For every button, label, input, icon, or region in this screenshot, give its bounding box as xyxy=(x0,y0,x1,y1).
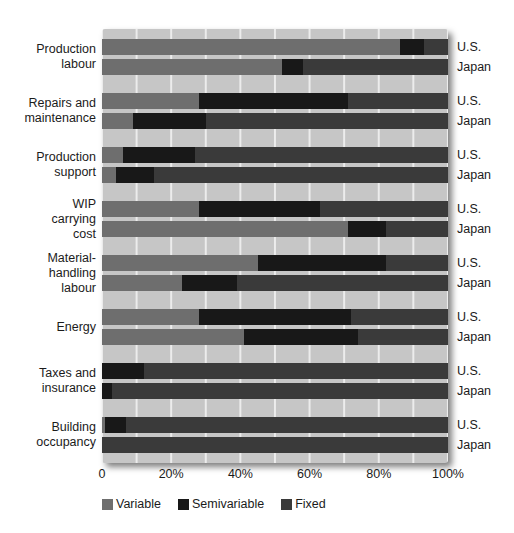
country-label: Japan xyxy=(457,330,491,344)
category-label-line: carrying xyxy=(52,212,96,227)
bar-segment-variable xyxy=(102,59,282,75)
legend-item: Semivariable xyxy=(178,497,264,511)
bar-segment-variable xyxy=(102,201,199,217)
country-label: U.S. xyxy=(457,256,481,270)
bar-segment-variable xyxy=(102,329,244,345)
bar-segment-semivariable xyxy=(258,255,386,271)
bar-group: Taxes andinsuranceU.S.Japan xyxy=(102,363,448,399)
category-label-line: support xyxy=(36,165,96,180)
bar-row-us: U.S. xyxy=(102,363,448,379)
bar-segment-fixed xyxy=(303,59,448,75)
bar-segment-semivariable xyxy=(282,59,303,75)
bar-segment-fixed xyxy=(144,363,448,379)
legend-item: Variable xyxy=(102,497,161,511)
bar-segment-variable xyxy=(102,147,123,163)
bar-row-us: U.S. xyxy=(102,201,448,217)
bar-group: ProductionsupportU.S.Japan xyxy=(102,147,448,183)
category-label-line: handling xyxy=(47,266,96,281)
country-label: U.S. xyxy=(457,202,481,216)
bar-segment-fixed xyxy=(351,309,448,325)
bar-segment-semivariable xyxy=(102,363,144,379)
bar-group: EnergyU.S.Japan xyxy=(102,309,448,345)
bar-segment-fixed xyxy=(348,93,448,109)
bar-group: ProductionlabourU.S.Japan xyxy=(102,39,448,75)
legend-item: Fixed xyxy=(281,497,326,511)
category-label-line: Building xyxy=(36,420,96,435)
category-label-line: Material- xyxy=(47,251,96,266)
bar-segment-fixed xyxy=(320,201,448,217)
bar-segment-semivariable xyxy=(182,275,237,291)
bar-row-japan: Japan xyxy=(102,437,448,453)
country-label: Japan xyxy=(457,438,491,452)
category-label: Buildingoccupancy xyxy=(36,420,96,450)
bar-segment-fixed xyxy=(424,39,448,55)
country-label: Japan xyxy=(457,60,491,74)
chart-canvas: ProductionlabourU.S.JapanRepairs andmain… xyxy=(0,0,514,533)
category-label-line: cost xyxy=(52,227,96,242)
bar-row-japan: Japan xyxy=(102,275,448,291)
bar-row-japan: Japan xyxy=(102,59,448,75)
bar-group: Material-handlinglabourU.S.Japan xyxy=(102,255,448,291)
category-label: Productionsupport xyxy=(36,150,96,180)
bar-segment-semivariable xyxy=(133,113,206,129)
country-label: Japan xyxy=(457,384,491,398)
bar-row-japan: Japan xyxy=(102,383,448,399)
x-tick-label: 100% xyxy=(432,467,464,481)
bar-segment-fixed xyxy=(102,437,448,453)
x-tick-label: 40% xyxy=(228,467,253,481)
bar-segment-semivariable xyxy=(348,221,386,237)
country-label: Japan xyxy=(457,168,491,182)
legend-label: Semivariable xyxy=(192,497,264,511)
country-label: U.S. xyxy=(457,94,481,108)
legend-label: Fixed xyxy=(295,497,326,511)
category-label-line: Repairs and xyxy=(24,96,96,111)
bar-row-us: U.S. xyxy=(102,147,448,163)
bar-group: BuildingoccupancyU.S.Japan xyxy=(102,417,448,453)
bar-segment-variable xyxy=(102,167,116,183)
bar-segment-semivariable xyxy=(199,93,348,109)
x-tick-label: 0 xyxy=(99,467,106,481)
bar-segment-variable xyxy=(102,275,182,291)
bar-segment-variable xyxy=(102,309,199,325)
bar-group: Repairs andmaintenanceU.S.Japan xyxy=(102,93,448,129)
bar-segment-variable xyxy=(102,39,400,55)
bar-segment-semivariable xyxy=(199,309,351,325)
bar-segment-fixed xyxy=(206,113,448,129)
bar-row-japan: Japan xyxy=(102,167,448,183)
x-tick-label: 80% xyxy=(366,467,391,481)
bar-segment-variable xyxy=(102,93,199,109)
bar-segment-semivariable xyxy=(116,167,154,183)
bar-segment-semivariable xyxy=(102,383,112,399)
x-axis: 020%40%60%80%100% xyxy=(102,467,448,483)
bar-segment-semivariable xyxy=(199,201,320,217)
bar-segment-fixed xyxy=(358,329,448,345)
country-label: Japan xyxy=(457,114,491,128)
category-label-line: Production xyxy=(36,150,96,165)
bar-row-japan: Japan xyxy=(102,221,448,237)
bar-segment-semivariable xyxy=(244,329,358,345)
legend-swatch-fixed xyxy=(281,499,292,510)
category-label: Repairs andmaintenance xyxy=(24,96,96,126)
category-label-line: insurance xyxy=(39,381,96,396)
category-label-line: Production xyxy=(36,42,96,57)
bar-segment-fixed xyxy=(112,383,448,399)
category-label: Material-handlinglabour xyxy=(47,251,96,296)
bar-group: WIPcarryingcostU.S.Japan xyxy=(102,201,448,237)
legend-swatch-semivariable xyxy=(178,499,189,510)
category-label: Productionlabour xyxy=(36,42,96,72)
bar-row-us: U.S. xyxy=(102,417,448,433)
bar-segment-fixed xyxy=(237,275,448,291)
legend: VariableSemivariableFixed xyxy=(102,497,326,511)
bar-segment-semivariable xyxy=(123,147,196,163)
bar-segment-fixed xyxy=(154,167,448,183)
country-label: U.S. xyxy=(457,364,481,378)
bar-segment-semivariable xyxy=(105,417,126,433)
category-label-line: WIP xyxy=(52,197,96,212)
legend-label: Variable xyxy=(116,497,161,511)
country-label: U.S. xyxy=(457,148,481,162)
category-label-line: Energy xyxy=(56,320,96,335)
category-label-line: Taxes and xyxy=(39,366,96,381)
bar-row-us: U.S. xyxy=(102,93,448,109)
bar-row-japan: Japan xyxy=(102,329,448,345)
category-label: Energy xyxy=(56,320,96,335)
